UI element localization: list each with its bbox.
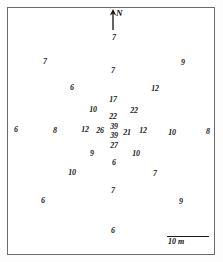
data-point-value: 39 xyxy=(110,123,118,131)
data-point-value: 10 xyxy=(168,129,176,137)
data-point-value: 9 xyxy=(181,59,185,67)
data-point-value: 27 xyxy=(110,142,118,150)
data-point-value: 8 xyxy=(53,127,57,135)
data-point-value: 6 xyxy=(112,159,116,167)
data-point-value: 6 xyxy=(41,197,45,205)
data-point-value: 6 xyxy=(14,126,18,134)
data-point-value: 7 xyxy=(111,67,115,75)
data-point-value: 7 xyxy=(112,34,116,42)
data-point-value: 6 xyxy=(111,227,115,235)
data-point-value: 22 xyxy=(130,107,138,115)
data-point-value: 10 xyxy=(132,150,140,158)
spatial-distribution-figure: N 10 m 779761217102222681226393921121082… xyxy=(0,0,223,262)
north-arrow: N xyxy=(108,9,132,31)
data-point-value: 26 xyxy=(96,127,104,135)
data-point-value: 10 xyxy=(89,106,97,114)
scale-bar-label: 10 m xyxy=(168,237,184,246)
data-point-value: 7 xyxy=(153,170,157,178)
data-point-value: 8 xyxy=(206,128,210,136)
data-point-value: 9 xyxy=(179,198,183,206)
data-point-value: 12 xyxy=(139,127,147,135)
data-point-value: 39 xyxy=(110,132,118,140)
data-point-value: 7 xyxy=(111,187,115,195)
data-point-value: 22 xyxy=(109,113,117,121)
data-point-value: 12 xyxy=(81,126,89,134)
scale-bar: 10 m xyxy=(167,236,209,252)
data-point-value: 12 xyxy=(151,85,159,93)
data-point-value: 21 xyxy=(123,129,131,137)
data-point-value: 17 xyxy=(109,96,117,104)
data-point-value: 7 xyxy=(43,58,47,66)
data-point-value: 6 xyxy=(70,84,74,92)
data-point-value: 10 xyxy=(68,169,76,177)
north-label: N xyxy=(116,9,123,18)
data-point-value: 9 xyxy=(90,150,94,158)
